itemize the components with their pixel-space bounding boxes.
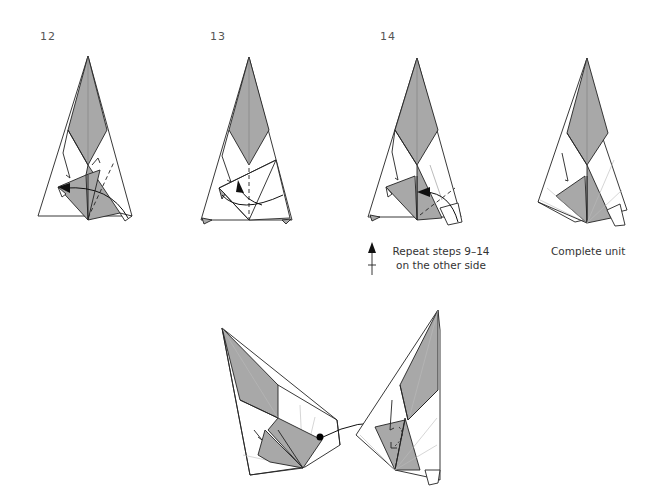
repeat-note-line2: on the other side (385, 258, 497, 272)
complete-unit-label: Complete unit (551, 244, 625, 258)
step-12-diagram (38, 56, 132, 221)
turn-over-arrow-icon (368, 242, 376, 275)
assembly-left-unit (222, 328, 340, 475)
repeat-note-line1: Repeat steps 9–14 (385, 244, 497, 258)
assembly-right-unit (356, 310, 440, 485)
complete-unit-diagram (538, 58, 627, 226)
step-14-diagram (368, 58, 462, 225)
repeat-note: Repeat steps 9–14 on the other side (385, 244, 497, 272)
step-13-diagram (201, 57, 292, 224)
